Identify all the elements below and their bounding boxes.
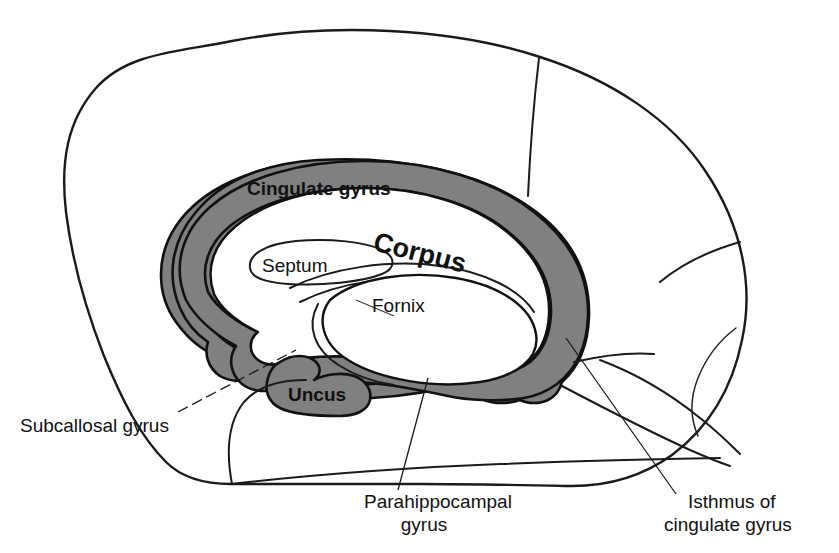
label-subcallosal-gyrus: Subcallosal gyrus xyxy=(20,415,169,436)
label-isthmus-line2: cingulate gyrus xyxy=(664,514,792,535)
label-septum: Septum xyxy=(262,255,327,276)
brain-limbic-system-diagram: Cingulate gyrus Corpus Septum Fornix Unc… xyxy=(0,0,839,553)
figure-canvas: Cingulate gyrus Corpus Septum Fornix Unc… xyxy=(0,0,839,553)
label-cingulate-gyrus: Cingulate gyrus xyxy=(247,178,391,199)
label-fornix: Fornix xyxy=(372,295,425,316)
label-parahippocampal-gyrus-line2: gyrus xyxy=(401,514,447,535)
label-isthmus-line1: Isthmus of xyxy=(688,491,776,512)
label-parahippocampal-gyrus-line1: Parahippocampal xyxy=(364,491,512,512)
label-uncus: Uncus xyxy=(288,384,346,405)
